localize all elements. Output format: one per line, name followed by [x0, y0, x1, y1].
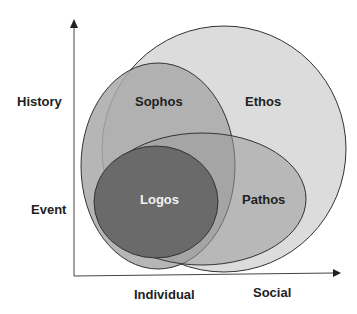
ethos-label: Ethos: [245, 94, 281, 109]
x-axis-arrow-icon: [333, 269, 341, 277]
x-label-individual: Individual: [134, 287, 195, 302]
x-label-social: Social: [253, 285, 291, 300]
x-axis: [74, 273, 333, 276]
y-axis-arrow-icon: [70, 19, 78, 28]
diagram-canvas: Ethos Sophos Pathos Logos History Event …: [0, 0, 357, 314]
pathos-label: Pathos: [242, 192, 285, 207]
logos-label: Logos: [140, 192, 179, 207]
sophos-label: Sophos: [135, 94, 183, 109]
y-label-event: Event: [31, 202, 67, 217]
y-label-history: History: [17, 94, 63, 109]
